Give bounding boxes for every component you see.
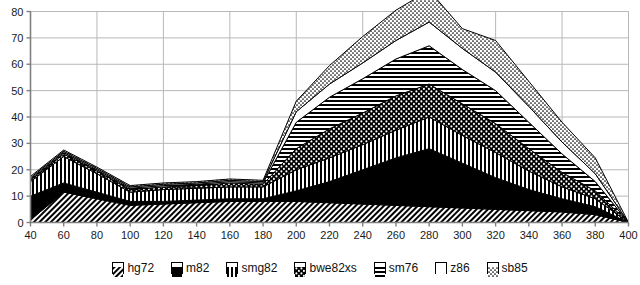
legend-swatch-sm76 bbox=[374, 262, 386, 274]
legend-label-smg82: smg82 bbox=[241, 262, 277, 274]
x-tick-label: 120 bbox=[154, 229, 172, 241]
legend-item-bwe82xs[interactable]: bwe82xs bbox=[294, 262, 356, 274]
x-tick-label: 180 bbox=[254, 229, 272, 241]
legend-label-sm76: sm76 bbox=[389, 262, 418, 274]
x-tick-label: 320 bbox=[486, 229, 504, 241]
x-axis-tick-labels: 4060801001201401601802002202402602803003… bbox=[24, 223, 637, 241]
chart-legend: hg72m82smg82bwe82xssm76z86sb85 bbox=[0, 256, 640, 280]
x-tick-label: 220 bbox=[320, 229, 338, 241]
legend-item-sm76[interactable]: sm76 bbox=[374, 262, 418, 274]
x-tick-label: 200 bbox=[287, 229, 305, 241]
legend-swatch-smg82 bbox=[226, 262, 238, 274]
x-tick-label: 380 bbox=[586, 229, 604, 241]
x-tick-label: 100 bbox=[121, 229, 139, 241]
x-tick-label: 280 bbox=[420, 229, 438, 241]
legend-label-hg72: hg72 bbox=[127, 262, 154, 274]
legend-label-m82: m82 bbox=[186, 262, 209, 274]
x-tick-label: 260 bbox=[387, 229, 405, 241]
y-tick-label: 10 bbox=[11, 190, 23, 202]
legend-swatch-bwe82xs bbox=[294, 262, 306, 274]
legend-label-bwe82xs: bwe82xs bbox=[309, 262, 356, 274]
y-tick-label: 60 bbox=[11, 58, 23, 70]
x-tick-label: 140 bbox=[187, 229, 205, 241]
x-tick-label: 300 bbox=[453, 229, 471, 241]
legend-swatch-sb85 bbox=[487, 262, 499, 274]
legend-label-z86: z86 bbox=[450, 262, 469, 274]
legend-item-hg72[interactable]: hg72 bbox=[112, 262, 154, 274]
x-tick-label: 160 bbox=[221, 229, 239, 241]
y-tick-label: 0 bbox=[17, 217, 23, 229]
stacked-area-chart: 01020304050607080 4060801001201401601802… bbox=[0, 0, 640, 285]
x-tick-label: 400 bbox=[619, 229, 637, 241]
chart-root: 01020304050607080 4060801001201401601802… bbox=[0, 0, 640, 285]
x-tick-label: 60 bbox=[58, 229, 70, 241]
legend-swatch-z86 bbox=[435, 262, 447, 274]
legend-swatch-m82 bbox=[171, 262, 183, 274]
y-tick-label: 40 bbox=[11, 111, 23, 123]
legend-label-sb85: sb85 bbox=[502, 262, 528, 274]
y-tick-label: 80 bbox=[11, 6, 23, 18]
legend-item-sb85[interactable]: sb85 bbox=[487, 262, 528, 274]
x-tick-label: 80 bbox=[91, 229, 103, 241]
y-tick-label: 30 bbox=[11, 137, 23, 149]
y-axis-tick-labels: 01020304050607080 bbox=[11, 6, 30, 229]
legend-item-smg82[interactable]: smg82 bbox=[226, 262, 277, 274]
x-tick-label: 40 bbox=[24, 229, 36, 241]
legend-item-z86[interactable]: z86 bbox=[435, 262, 469, 274]
x-tick-label: 240 bbox=[354, 229, 372, 241]
y-tick-label: 70 bbox=[11, 32, 23, 44]
legend-item-m82[interactable]: m82 bbox=[171, 262, 209, 274]
legend-swatch-hg72 bbox=[112, 262, 124, 274]
x-tick-label: 360 bbox=[553, 229, 571, 241]
y-tick-label: 50 bbox=[11, 85, 23, 97]
x-tick-label: 340 bbox=[520, 229, 538, 241]
y-tick-label: 20 bbox=[11, 164, 23, 176]
